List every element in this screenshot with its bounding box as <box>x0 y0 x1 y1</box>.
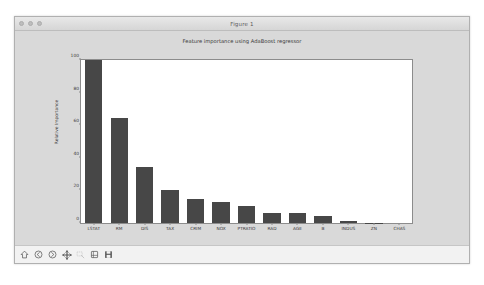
bar-slot: TAX <box>157 60 182 223</box>
x-tick-label: NOX <box>216 226 225 231</box>
y-tick-label: 0 <box>76 216 79 221</box>
forward-button[interactable] <box>47 249 58 260</box>
zoom-rect-icon <box>76 250 85 259</box>
x-tick-label: B <box>321 226 324 231</box>
window-titlebar: Figure 1 <box>15 17 469 31</box>
zoom-button <box>75 249 86 260</box>
bar <box>85 60 102 223</box>
back-arrow-icon <box>34 250 43 259</box>
bar <box>289 213 306 223</box>
x-tick-label: AGE <box>293 226 302 231</box>
x-tick-label: ZN <box>371 226 377 231</box>
bar-slot: CHAS <box>387 60 412 223</box>
save-button[interactable] <box>103 249 114 260</box>
plot-axes: 020406080100 LSTATRMDISTAXCRIMNOXPTRATIO… <box>80 59 413 224</box>
x-tick-label: RAD <box>267 226 276 231</box>
bar-slot: DIS <box>132 60 157 223</box>
x-tick-label: INDUS <box>342 226 356 231</box>
bar <box>187 199 204 223</box>
bar-slot: ZN <box>361 60 386 223</box>
floppy-disk-icon <box>104 250 113 259</box>
bar-slot: AGE <box>285 60 310 223</box>
back-button[interactable] <box>33 249 44 260</box>
bar <box>111 118 128 223</box>
forward-arrow-icon <box>48 250 57 259</box>
bar-slot: INDUS <box>336 60 361 223</box>
home-button[interactable] <box>19 249 30 260</box>
pan-button[interactable] <box>61 249 72 260</box>
figure-window: Figure 1 Feature importance using AdaBoo… <box>14 16 470 264</box>
x-tick-label: CHAS <box>393 226 405 231</box>
y-tick-label: 60 <box>73 118 79 123</box>
x-tick-label: TAX <box>166 226 174 231</box>
configure-button[interactable] <box>89 249 100 260</box>
chart-title: Feature importance using AdaBoost regres… <box>15 38 469 45</box>
bar-slot: RM <box>106 60 131 223</box>
window-title: Figure 1 <box>15 19 469 29</box>
y-axis-label: Relative Importance <box>54 92 60 152</box>
x-tick-label: RM <box>116 226 123 231</box>
bar-slot: B <box>310 60 335 223</box>
y-tick-label: 100 <box>71 53 79 58</box>
x-tick-label: CRIM <box>190 226 201 231</box>
bar-slot: NOX <box>208 60 233 223</box>
x-tick-label: PTRATIO <box>238 226 256 231</box>
bar <box>263 213 280 223</box>
x-tick-label: LSTAT <box>87 226 100 231</box>
bar <box>136 167 153 223</box>
bar <box>238 206 255 223</box>
move-cross-icon <box>62 250 72 260</box>
sliders-icon <box>90 250 99 259</box>
x-tick-label: DIS <box>141 226 148 231</box>
bar-slot: CRIM <box>183 60 208 223</box>
y-tick-label: 20 <box>73 183 79 188</box>
y-tick-label: 40 <box>73 150 79 155</box>
home-icon <box>20 250 29 259</box>
bar-series: LSTATRMDISTAXCRIMNOXPTRATIORADAGEBINDUSZ… <box>81 60 412 223</box>
matplotlib-toolbar <box>15 245 469 263</box>
bar-slot: PTRATIO <box>234 60 259 223</box>
bar <box>212 202 229 223</box>
bar <box>161 190 178 223</box>
bar-slot: RAD <box>259 60 284 223</box>
bar-slot: LSTAT <box>81 60 106 223</box>
y-tick-label: 80 <box>73 85 79 90</box>
figure-canvas: Feature importance using AdaBoost regres… <box>15 31 469 247</box>
